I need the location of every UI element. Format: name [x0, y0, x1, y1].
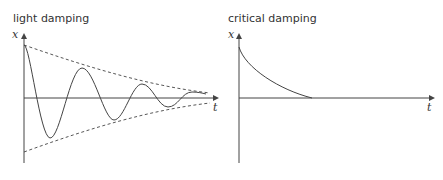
svg-text:x: x — [228, 28, 235, 41]
oscillation-curve — [24, 45, 206, 138]
decay-curve — [239, 47, 312, 98]
svg-text:t: t — [213, 101, 218, 114]
critical-damping-plot: x t — [228, 28, 432, 163]
svg-text:x: x — [12, 28, 19, 41]
envelope-lower — [24, 103, 210, 152]
damping-diagrams: x t x t — [0, 0, 443, 180]
envelope-upper — [24, 45, 210, 93]
light-damping-plot: x t — [12, 28, 218, 163]
svg-text:t: t — [427, 101, 432, 114]
